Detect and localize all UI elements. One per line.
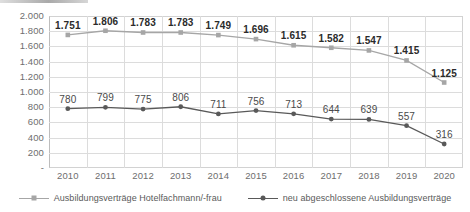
series-marker xyxy=(329,117,334,122)
data-point-label: 1.749 xyxy=(206,21,232,31)
data-point-label: 806 xyxy=(172,93,189,103)
series-marker xyxy=(442,142,447,147)
y-axis-tick-label: 1.200 xyxy=(20,72,44,82)
y-axis-tick-label: 400 xyxy=(28,133,44,143)
data-point-label: 780 xyxy=(59,95,76,105)
data-point-label: 1.783 xyxy=(130,18,156,28)
legend-marker-circle-icon xyxy=(248,194,278,203)
data-point-label: 711 xyxy=(210,100,226,110)
header-rule xyxy=(0,0,88,3)
series-marker xyxy=(66,33,71,38)
data-point-label: 639 xyxy=(360,105,377,115)
series-marker xyxy=(367,117,372,122)
x-axis-tick-label: 2010 xyxy=(57,170,79,182)
x-axis-tick-label: 2018 xyxy=(358,170,380,182)
y-axis-tick-label: 200 xyxy=(28,148,44,158)
series-marker xyxy=(404,58,409,63)
series-marker xyxy=(178,30,183,35)
x-axis-tick-label: 2012 xyxy=(132,170,154,182)
legend-item-neu-abgeschlossene-ausbildungsvertraege[interactable]: neu abgeschlossene Ausbildungsverträge xyxy=(248,193,452,203)
data-point-label: 775 xyxy=(135,95,152,105)
y-axis-tick-label: 1.800 xyxy=(20,26,44,36)
series-marker xyxy=(216,112,221,117)
data-point-label: 1.696 xyxy=(243,25,269,35)
series-marker xyxy=(442,80,447,85)
series-marker xyxy=(216,33,221,38)
legend-label: neu abgeschlossene Ausbildungsverträge xyxy=(283,193,452,203)
plot-area: 1.7511.8061.7831.7831.7491.6961.6151.582… xyxy=(49,16,463,168)
data-point-label: 316 xyxy=(436,130,453,140)
series-marker xyxy=(254,108,259,113)
x-axis-tick-label: 2013 xyxy=(170,170,192,182)
y-axis-tick-label: 800 xyxy=(28,102,44,112)
data-point-label: 756 xyxy=(248,97,265,107)
x-axis-tick-label: 2015 xyxy=(245,170,267,182)
x-axis-tick-label: 2014 xyxy=(208,170,230,182)
series-marker xyxy=(367,48,372,53)
y-axis-labels: -2004006008001.0001.2001.4001.6001.8002.… xyxy=(0,16,44,168)
series-marker xyxy=(65,106,70,111)
x-axis-tick-label: 2011 xyxy=(95,170,116,182)
chart-container: -2004006008001.0001.2001.4001.6001.8002.… xyxy=(0,0,470,212)
y-axis-tick-label: 1.000 xyxy=(20,87,44,97)
y-axis-tick-label: 600 xyxy=(28,117,44,127)
data-point-label: 799 xyxy=(97,93,114,103)
data-point-label: 1.415 xyxy=(394,46,420,56)
series-marker xyxy=(141,30,146,35)
legend-marker-square-icon xyxy=(19,194,49,203)
data-point-label: 1.582 xyxy=(319,34,345,44)
data-point-label: 557 xyxy=(398,112,415,122)
data-point-label: 713 xyxy=(285,100,302,110)
series-marker xyxy=(291,111,296,116)
series-marker xyxy=(404,123,409,128)
x-axis-tick-label: 2019 xyxy=(396,170,418,182)
data-point-label: 644 xyxy=(323,105,340,115)
data-point-label: 1.547 xyxy=(356,36,382,46)
series-marker xyxy=(329,45,334,50)
x-axis-labels: 2010201120122013201420152016201720182019… xyxy=(49,170,463,184)
y-axis-tick-label: 2.000 xyxy=(20,11,44,21)
chart-legend: Ausbildungsverträge Hotelfachmann/-frau … xyxy=(0,190,470,206)
series-marker xyxy=(141,107,146,112)
data-point-label: 1.125 xyxy=(431,69,457,79)
y-axis-tick-label: 1.400 xyxy=(20,57,44,67)
legend-item-ausbildungsvertraege-hotelfachmann[interactable]: Ausbildungsverträge Hotelfachmann/-frau xyxy=(19,193,222,203)
data-point-label: 1.751 xyxy=(55,21,81,31)
x-axis-tick-label: 2017 xyxy=(320,170,342,182)
legend-label: Ausbildungsverträge Hotelfachmann/-frau xyxy=(54,193,222,203)
y-axis-tick-label: 1.600 xyxy=(20,41,44,51)
y-axis-tick-label: - xyxy=(41,163,44,173)
series-marker xyxy=(103,105,108,110)
x-axis-tick-label: 2016 xyxy=(283,170,305,182)
x-axis-tick-label: 2020 xyxy=(433,170,455,182)
series-marker xyxy=(178,104,183,109)
series-marker xyxy=(254,37,259,42)
data-point-label: 1.783 xyxy=(168,18,194,28)
data-point-label: 1.615 xyxy=(281,31,307,41)
series-marker xyxy=(291,43,296,48)
series-marker xyxy=(103,28,108,33)
data-point-label: 1.806 xyxy=(93,17,119,27)
